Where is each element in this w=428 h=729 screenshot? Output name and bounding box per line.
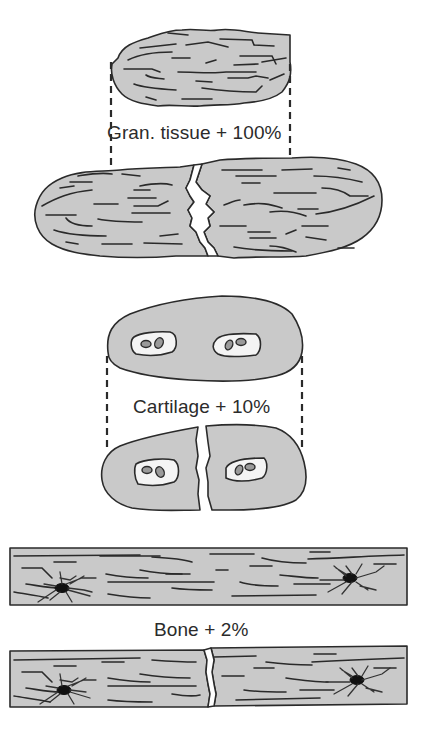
granulation-tissue-panel: [35, 29, 382, 258]
cartilage-label: Cartilage + 10%: [133, 397, 270, 416]
granulation-tissue-label: Gran. tissue + 100%: [107, 123, 282, 142]
bone-intact: [10, 548, 407, 605]
granulation-tissue-stretched: [35, 157, 382, 258]
bone-label: Bone + 2%: [154, 620, 248, 639]
cartilage-strained: [102, 425, 306, 511]
cartilage-unstrained: [108, 296, 303, 381]
granulation-tissue-unstretched: [111, 29, 290, 106]
bone-fractured: [10, 646, 407, 707]
